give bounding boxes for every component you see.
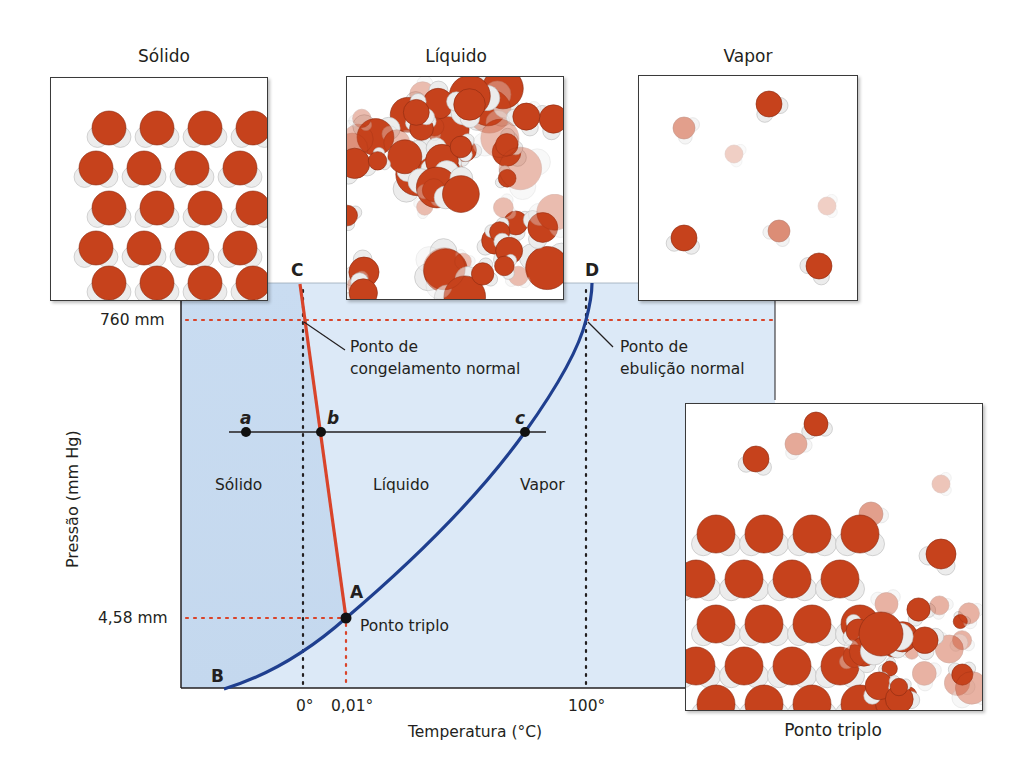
isobar-label-c: c (515, 408, 525, 428)
region-label-solid: Sólido (215, 476, 262, 495)
region-label-liquid: Líquido (373, 476, 429, 495)
point-b-marker (316, 427, 326, 437)
solid-molecule-panel (50, 77, 268, 301)
point-c-marker (520, 427, 530, 437)
x-tick-0deg: 0° (296, 697, 314, 716)
water-vapor-illustration (639, 76, 857, 300)
ice-lattice-illustration (51, 78, 267, 300)
triple-point-marker (341, 613, 352, 624)
y-tick-760mm: 760 mm (100, 311, 165, 330)
boiling-point-annotation-line1: Ponto de (620, 338, 688, 357)
point-label-D: D (585, 260, 599, 280)
region-label-vapor: Vapor (520, 476, 565, 495)
point-label-B: B (211, 666, 224, 686)
liquid-molecule-panel (346, 76, 564, 300)
liquid-water-illustration (347, 77, 563, 299)
triple-point-illustration (686, 404, 982, 710)
x-axis-label: Temperatura (°C) (408, 723, 542, 742)
triple-point-caption: Ponto triplo (783, 720, 883, 740)
vapor-molecule-panel (638, 75, 858, 301)
isobar-label-a: a (240, 408, 251, 428)
boiling-point-annotation-line2: ebulição normal (620, 360, 745, 379)
freezing-point-annotation-line1: Ponto de (350, 338, 418, 357)
point-label-C: C (291, 260, 303, 280)
x-tick-0-01deg: 0,01° (331, 697, 373, 716)
isobar-label-b: b (327, 408, 339, 428)
triple-point-annotation: Ponto triplo (360, 617, 449, 636)
freezing-point-annotation-line2: congelamento normal (350, 360, 520, 379)
triple-point-molecule-panel (685, 403, 983, 711)
y-axis-label: Pressão (mm Hg) (63, 430, 82, 568)
y-tick-4-58mm: 4,58 mm (98, 609, 168, 628)
point-a-marker (241, 427, 251, 437)
x-tick-100deg: 100° (568, 697, 605, 716)
point-label-A: A (350, 582, 363, 602)
